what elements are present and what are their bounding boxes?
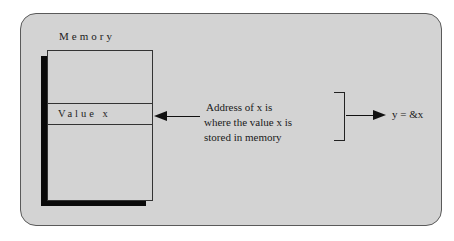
pointer-arrow-to-memory bbox=[160, 116, 200, 117]
right-bracket bbox=[334, 92, 345, 141]
arrow-right-icon bbox=[373, 110, 386, 120]
annotation-line-3: stored in memory bbox=[204, 130, 292, 145]
memory-cell-top-divider bbox=[48, 103, 152, 104]
result-expression: y = &x bbox=[392, 108, 423, 120]
memory-block: Value x bbox=[47, 50, 153, 201]
memory-cell-value-x: Value x bbox=[58, 108, 111, 119]
annotation-line-2: where the value x is bbox=[204, 115, 292, 130]
memory-title: Memory bbox=[59, 30, 115, 42]
result-arrow bbox=[346, 115, 376, 116]
annotation-line-1: Address of x is bbox=[204, 100, 292, 115]
memory-cell-bottom-divider bbox=[48, 124, 152, 125]
address-annotation: Address of x is where the value x is sto… bbox=[204, 100, 292, 145]
